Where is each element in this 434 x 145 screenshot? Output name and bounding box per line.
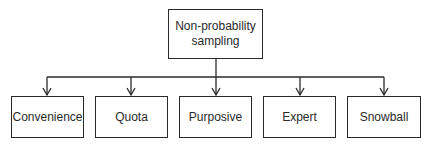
child-node-expert: Expert (263, 96, 336, 138)
sampling-tree-diagram: Non-probability sampling Convenience Quo… (0, 0, 434, 145)
child-node-quota: Quota (95, 96, 168, 138)
child-label: Snowball (360, 110, 409, 125)
root-node-non-probability-sampling: Non-probability sampling (168, 9, 263, 59)
child-node-purposive: Purposive (179, 96, 252, 138)
child-label: Quota (115, 110, 148, 125)
child-label: Convenience (12, 110, 82, 125)
child-label: Expert (282, 110, 317, 125)
child-node-snowball: Snowball (347, 96, 421, 138)
root-label-line2: sampling (175, 34, 256, 49)
root-label-line1: Non-probability (175, 19, 256, 34)
child-label: Purposive (189, 110, 242, 125)
child-node-convenience: Convenience (11, 96, 84, 138)
